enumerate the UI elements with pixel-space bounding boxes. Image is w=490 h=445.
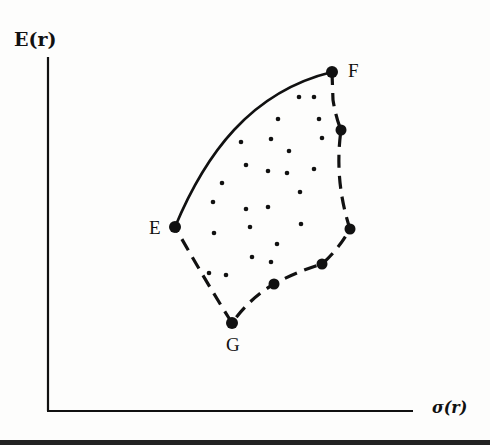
plot-area — [0, 0, 490, 445]
page-edge-rule — [0, 440, 490, 445]
point-e-marker — [169, 221, 181, 233]
frontier-marker — [317, 259, 328, 270]
interior-point — [287, 149, 292, 154]
point-f-marker — [326, 66, 338, 78]
interior-point — [266, 205, 271, 210]
frontier-marker — [345, 224, 356, 235]
point-f-label: F — [348, 60, 359, 82]
interior-point — [312, 167, 317, 172]
interior-point — [275, 242, 280, 247]
interior-point — [266, 169, 271, 174]
point-g-marker — [226, 317, 238, 329]
interior-point — [248, 225, 253, 230]
point-e-label: E — [149, 217, 161, 239]
frontier-marker — [269, 279, 280, 290]
labeled-points — [169, 66, 338, 329]
x-axis-label: σ(r) — [432, 398, 467, 417]
figure: E(r) σ(r) E F G — [0, 0, 490, 445]
interior-point — [297, 95, 302, 100]
interior-point — [276, 117, 281, 122]
point-g-label: G — [226, 334, 240, 356]
interior-point — [320, 136, 325, 141]
interior-point — [312, 95, 317, 100]
interior-point — [269, 260, 274, 265]
interior-point — [220, 181, 225, 186]
interior-point — [299, 222, 304, 227]
interior-point — [285, 171, 290, 176]
dashed-boundary — [175, 72, 350, 323]
interior-point — [250, 255, 255, 260]
frontier-marker — [336, 125, 347, 136]
interior-point — [239, 140, 244, 145]
interior-point — [317, 117, 322, 122]
interior-points — [207, 95, 325, 278]
interior-point — [269, 137, 274, 142]
interior-point — [244, 207, 249, 212]
interior-point — [211, 200, 216, 205]
y-axis-label: E(r) — [14, 28, 56, 50]
interior-point — [207, 271, 212, 276]
interior-point — [298, 190, 303, 195]
interior-point — [244, 163, 249, 168]
interior-point — [212, 231, 217, 236]
efficient-frontier-curve — [175, 72, 332, 227]
interior-point — [224, 273, 229, 278]
